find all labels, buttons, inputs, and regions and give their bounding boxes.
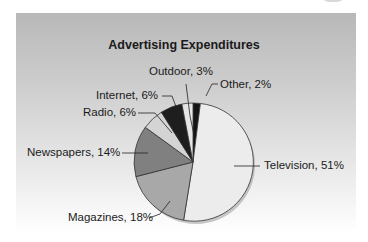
label-internet: Internet, 6% — [96, 89, 158, 101]
label-magazines: Magazines, 18% — [68, 211, 153, 223]
label-radio: Radio, 6% — [83, 106, 136, 118]
label-other: Other, 2% — [220, 78, 271, 90]
label-newspapers: Newspapers, 14% — [27, 146, 120, 158]
pie-chart — [0, 0, 368, 242]
label-television: Television, 51% — [264, 159, 344, 171]
label-outdoor: Outdoor, 3% — [149, 65, 213, 77]
leader-other — [206, 84, 218, 96]
